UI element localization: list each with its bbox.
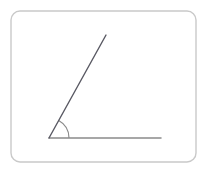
rounded-card-border <box>11 11 196 162</box>
angle-diagram <box>0 0 208 172</box>
figure-canvas: Angle diagram A single angle formed by t… <box>0 0 208 172</box>
